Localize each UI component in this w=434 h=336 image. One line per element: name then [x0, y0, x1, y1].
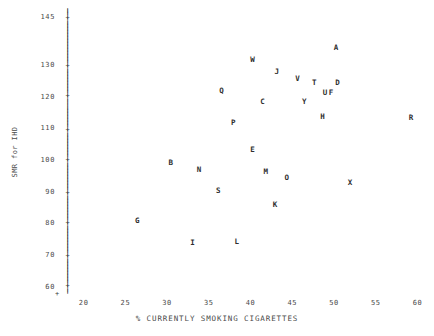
- y-tick-label: 130: [27, 61, 55, 69]
- data-point-marker: H: [320, 111, 324, 120]
- y-tick-label: 100: [27, 156, 55, 164]
- data-point-marker: T: [312, 78, 316, 87]
- x-tick-label: 20: [71, 299, 97, 307]
- data-point-marker: K: [273, 200, 277, 209]
- data-point-marker: F: [329, 87, 333, 96]
- x-axis-title: % CURRENTLY SMOKING CIGARETTES: [0, 314, 434, 323]
- x-tick-label: 30: [154, 299, 180, 307]
- data-point-marker: G: [135, 216, 139, 225]
- scatter-plot-figure: SMR for IHD 14513012011010090807060 | | …: [0, 0, 434, 336]
- data-point-marker: Q: [219, 86, 223, 95]
- x-tick-label: 25: [112, 299, 138, 307]
- y-tick-label: 80: [27, 219, 55, 227]
- x-tick-label: 60: [404, 299, 430, 307]
- x-tick-label: 35: [196, 299, 222, 307]
- x-tick-label: 45: [279, 299, 305, 307]
- y-axis-line: | | | + | | | | | | | | | | | | | | | + …: [63, 8, 72, 294]
- data-point-marker: W: [250, 54, 254, 63]
- data-point-marker: O: [284, 173, 288, 182]
- data-point-marker: M: [264, 167, 268, 176]
- data-point-marker: P: [231, 117, 235, 126]
- x-tick-label: 50: [321, 299, 347, 307]
- x-axis-line: +: [55, 291, 433, 298]
- y-tick-label: 145: [27, 13, 55, 21]
- data-point-marker: S: [216, 186, 220, 195]
- y-tick-label: 120: [27, 93, 55, 101]
- y-tick-label: 60: [27, 283, 55, 291]
- x-tick-label: 40: [238, 299, 264, 307]
- y-axis-title: SMR for IHD: [11, 107, 19, 197]
- data-point-marker: L: [234, 236, 238, 245]
- y-tick-label: 110: [27, 124, 55, 132]
- data-point-marker: B: [168, 157, 172, 166]
- data-point-marker: V: [295, 73, 299, 82]
- data-point-marker: E: [250, 144, 254, 153]
- data-point-marker: Y: [302, 97, 306, 106]
- data-point-marker: X: [348, 178, 352, 187]
- y-tick-label: 90: [27, 188, 55, 196]
- data-point-marker: N: [197, 165, 201, 174]
- data-point-marker: D: [335, 78, 339, 87]
- data-point-marker: U: [323, 87, 327, 96]
- data-point-marker: I: [190, 238, 194, 247]
- data-point-marker: C: [260, 97, 264, 106]
- x-tick-label: 55: [363, 299, 389, 307]
- data-point-marker: A: [334, 43, 338, 52]
- y-tick-label: 70: [27, 251, 55, 259]
- data-point-marker: R: [409, 113, 413, 122]
- data-point-marker: J: [274, 67, 278, 76]
